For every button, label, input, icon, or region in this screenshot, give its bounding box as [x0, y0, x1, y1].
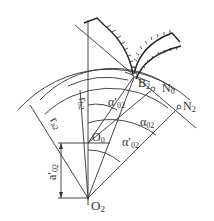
- label-b2: B2: [138, 76, 150, 91]
- arrow-up: [59, 143, 63, 149]
- label-n2: N2: [183, 99, 196, 114]
- label-n0: N0: [162, 81, 175, 96]
- label-alpha02-prime-upper: α′02: [108, 95, 125, 110]
- label-alpha02-prime-lower: α′02: [122, 135, 139, 150]
- point-o2: [87, 197, 89, 199]
- label-ra2: ra2: [47, 114, 66, 132]
- gear-tooth-right: [132, 30, 181, 79]
- point-b2: [133, 73, 137, 77]
- cutter-tooth-left: [84, 18, 135, 74]
- label-o0: O0: [92, 130, 105, 145]
- point-n2: [177, 105, 181, 109]
- point-n0: [151, 87, 155, 91]
- gear-geometry-diagram: B2 N0 N2 O0 O2 ra2 rb2 a′02 α′02 α02 α′0…: [0, 0, 214, 221]
- arrow-down: [59, 192, 63, 198]
- o2-n2-line: [88, 107, 179, 198]
- label-a02-prime: a′02: [45, 164, 60, 180]
- label-rb2: rb2: [75, 96, 92, 110]
- inner-arc: [68, 77, 128, 86]
- label-o2: O2: [91, 198, 105, 214]
- label-alpha02: α02: [140, 115, 154, 130]
